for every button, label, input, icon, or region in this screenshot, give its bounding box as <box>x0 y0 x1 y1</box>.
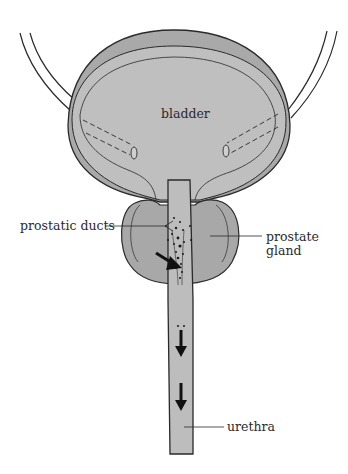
bladder-inner <box>72 46 286 200</box>
urethra <box>168 180 193 454</box>
label-prostate-gland-line2: gland <box>266 244 302 258</box>
right-ureter <box>288 31 337 118</box>
left-ureter <box>20 33 75 112</box>
label-prostatic-ducts: prostatic ducts <box>20 219 115 233</box>
label-prostate-gland-line1: prostate <box>266 230 319 244</box>
label-urethra: urethra <box>227 420 275 434</box>
label-bladder: bladder <box>161 107 210 121</box>
